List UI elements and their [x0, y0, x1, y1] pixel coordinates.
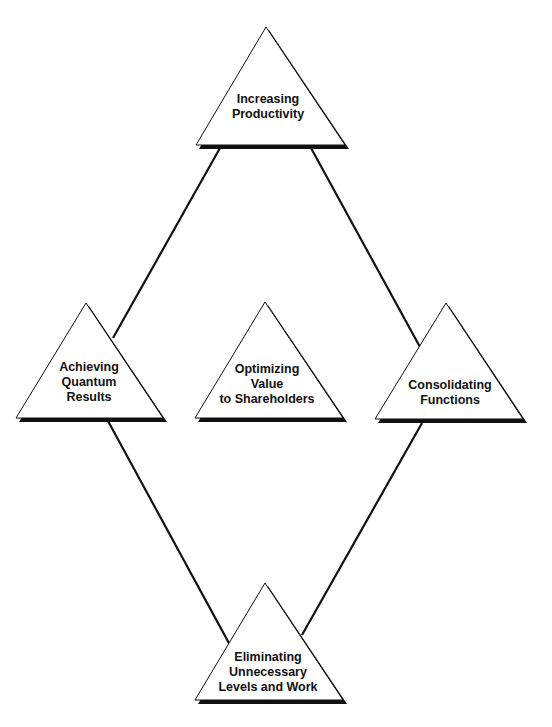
label-line: Quantum: [59, 375, 119, 390]
diagram-canvas: Increasing Productivity Achieving Quantu…: [0, 0, 552, 727]
label-line: Unnecessary: [218, 665, 317, 680]
edge-top-left: [113, 148, 220, 338]
node-label-center: Optimizing Value to Shareholders: [219, 362, 314, 407]
label-line: Increasing: [232, 92, 304, 107]
label-line: to Shareholders: [219, 392, 314, 407]
node-label-bottom: Eliminating Unnecessary Levels and Work: [218, 650, 317, 695]
edge-left-bottom: [108, 421, 230, 645]
node-label-top: Increasing Productivity: [232, 92, 304, 122]
label-line: Eliminating: [218, 650, 317, 665]
node-label-right: Consolidating Functions: [408, 378, 491, 408]
label-line: Value: [219, 377, 314, 392]
edge-right-bottom: [302, 423, 422, 635]
triangle-top: [196, 27, 349, 149]
label-line: Levels and Work: [218, 680, 317, 695]
node-label-left: Achieving Quantum Results: [59, 360, 119, 405]
label-line: Consolidating: [408, 378, 491, 393]
label-line: Functions: [408, 393, 491, 408]
label-line: Optimizing: [219, 362, 314, 377]
edge-top-right: [311, 148, 420, 347]
label-line: Results: [59, 390, 119, 405]
label-line: Achieving: [59, 360, 119, 375]
label-line: Productivity: [232, 107, 304, 122]
